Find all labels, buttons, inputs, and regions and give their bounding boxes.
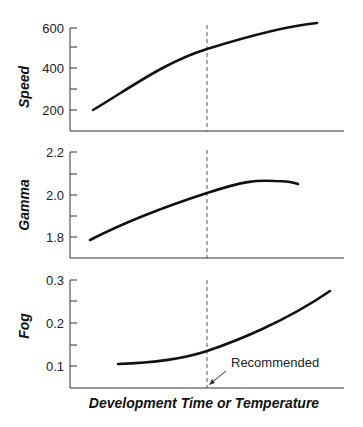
speed-tick-600: 600 bbox=[42, 21, 64, 36]
speed-panel: 600 400 200 Speed bbox=[16, 21, 344, 132]
fog-panel: 0.3 0.2 0.1 Fog Recommended bbox=[16, 273, 344, 389]
fog-tick-0.3: 0.3 bbox=[46, 273, 64, 288]
gamma-ticks bbox=[70, 152, 77, 237]
speed-ticks bbox=[70, 28, 77, 110]
recommended-arrow-icon bbox=[209, 371, 226, 385]
gamma-curve bbox=[90, 181, 298, 240]
fog-curve bbox=[118, 291, 330, 364]
speed-axis-title: Speed bbox=[16, 66, 32, 108]
fog-ticks bbox=[70, 280, 77, 366]
gamma-axis-title: Gamma bbox=[16, 179, 32, 231]
speed-curve bbox=[93, 23, 317, 110]
speed-tick-200: 200 bbox=[42, 103, 64, 118]
speed-tick-400: 400 bbox=[42, 61, 64, 76]
speed-y-axis bbox=[70, 28, 344, 131]
gamma-tick-2.2: 2.2 bbox=[46, 145, 64, 160]
gamma-tick-2.0: 2.0 bbox=[46, 188, 64, 203]
fog-axis-title: Fog bbox=[16, 313, 32, 339]
x-axis-title: Development Time or Temperature bbox=[89, 395, 320, 411]
recommended-label: Recommended bbox=[231, 355, 319, 370]
gamma-tick-1.8: 1.8 bbox=[46, 230, 64, 245]
fog-tick-0.2: 0.2 bbox=[46, 316, 64, 331]
characteristic-curves-chart: 600 400 200 Speed 2.2 2.0 1.8 Gamma bbox=[0, 0, 363, 427]
fog-tick-0.1: 0.1 bbox=[46, 359, 64, 374]
gamma-panel: 2.2 2.0 1.8 Gamma bbox=[16, 145, 344, 259]
